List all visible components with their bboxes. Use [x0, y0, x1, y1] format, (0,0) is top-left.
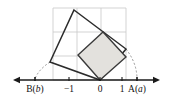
axis-label-tick-one: 1	[120, 84, 125, 94]
axis-arrowhead-right	[153, 77, 160, 83]
small-shaded-square	[78, 32, 126, 80]
axis-label-tick-b: B(b)	[26, 84, 43, 95]
label-text: )	[41, 84, 44, 95]
geometry-figure: B(b)−101A(a)	[0, 0, 170, 105]
arc-left-to-b	[35, 62, 50, 79]
axis-label-tick-a: A(a)	[128, 84, 146, 95]
axis-tick-labels: B(b)−101A(a)	[26, 84, 146, 95]
label-text: B(	[26, 84, 36, 95]
label-text: )	[143, 84, 146, 95]
label-text: A(	[128, 84, 138, 95]
arc-right-to-a	[126, 49, 137, 79]
axis-arrowhead-left	[13, 77, 20, 83]
figure-canvas: B(b)−101A(a)	[0, 0, 170, 105]
axis-label-tick-zero: 0	[98, 84, 103, 94]
axis-label-tick-neg1: −1	[64, 84, 74, 94]
